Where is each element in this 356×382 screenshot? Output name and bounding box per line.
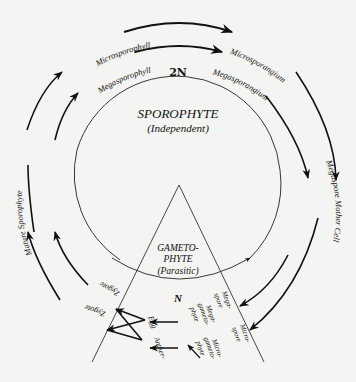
gametophyte-subtitle: (Parasitic)	[157, 266, 198, 277]
gametophyte-title-2: PHYTE	[162, 254, 192, 264]
label-zygote-inner: Zygote	[97, 279, 121, 298]
label-mature-sporophyte-outer: Mature Sporophyte	[0, 198, 1, 266]
life-cycle-diagram: SPOROPHYTE (Independent) 2N N GAMETO- PH…	[0, 0, 356, 382]
ploidy-2n-label: 2N	[169, 66, 187, 79]
wedge-small-labels: Mega- spore Micro- spore Mega- gameto- p…	[188, 289, 253, 361]
label-megaspore-mother-cell: Megaspore Mother Cell	[324, 158, 344, 244]
label-mature-sporophyte-inner: Mature Sporophyte	[14, 190, 35, 259]
label-egg: Egg	[146, 314, 159, 330]
gametophyte-title-1: GAMETO-	[157, 243, 199, 253]
ploidy-n-label: N	[173, 292, 183, 304]
label-microsporophyll: Microsporophyll	[93, 40, 152, 69]
sporophyte-subtitle: (Independent)	[147, 122, 209, 135]
fertilization-arrows	[107, 309, 178, 348]
sporophyte-title: SPOROPHYTE	[138, 106, 219, 121]
label-zygote-outer: Zygote	[83, 303, 107, 319]
label-megasporangium: Megasporangium	[211, 66, 271, 102]
bleed-through-text	[0, 0, 356, 10]
